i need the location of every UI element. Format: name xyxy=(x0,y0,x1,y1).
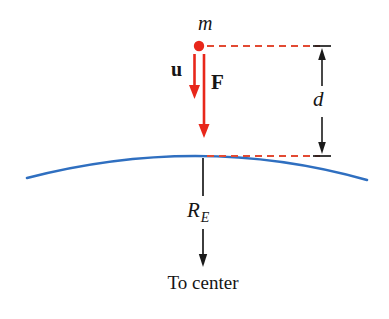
to-center-caption: To center xyxy=(168,273,239,292)
dimension-arrowhead-down-icon xyxy=(318,142,326,154)
force-arrow xyxy=(199,54,210,138)
earth-radius-symbol: R xyxy=(187,198,200,222)
distance-label: d xyxy=(313,89,324,110)
velocity-arrowhead-icon xyxy=(189,85,200,99)
physics-diagram: m u F d RE To center xyxy=(0,0,389,319)
earth-surface-curve xyxy=(27,156,367,180)
earth-radius-subscript: E xyxy=(201,210,210,225)
force-label: F xyxy=(211,72,224,93)
force-arrowhead-icon xyxy=(199,124,210,138)
dimension-arrowhead-up-icon xyxy=(318,48,326,60)
mass-dot xyxy=(194,41,204,51)
mass-label: m xyxy=(198,13,212,33)
velocity-label: u xyxy=(171,59,182,79)
earth-radius-label: RE xyxy=(187,200,208,221)
velocity-arrow xyxy=(189,54,200,99)
to-center-arrowhead-icon xyxy=(199,254,207,267)
